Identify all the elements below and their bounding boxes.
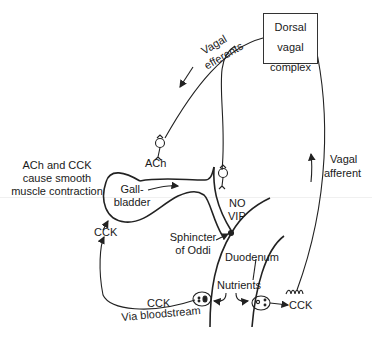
dvc-label-line-3: complex	[264, 61, 317, 74]
note-line-3: muscle contraction	[8, 185, 106, 198]
vagal-afferent-label-1: Vagal	[330, 153, 357, 166]
note-line-1: ACh and CCK	[8, 159, 106, 172]
no-vip-nerve-terminal-icon	[219, 169, 228, 178]
afferent-direction-arrow	[311, 154, 312, 182]
dorsal-vagal-complex-box: Dorsal vagal complex	[263, 13, 318, 64]
duodenum-label: Duodenum	[225, 251, 279, 264]
vagal-efferent-no-vip-path	[221, 46, 235, 170]
afferent-endings-icon	[286, 290, 303, 294]
vip-label: VIP	[228, 210, 246, 223]
efferent-direction-arrow	[180, 67, 193, 87]
sphincter-dot	[229, 231, 234, 236]
vagal-afferent-path	[297, 44, 325, 290]
vagal-afferent-label-2: afferent	[324, 167, 361, 180]
gallbladder-label-2: bladder	[112, 196, 152, 209]
diagram-canvas: Dorsal vagal complex Vagal efferents Vag…	[0, 0, 372, 337]
dvc-label-line-2: vagal	[264, 41, 317, 54]
cck-right-label: CCK	[289, 299, 312, 312]
sphincter-label-1: Sphincter	[168, 231, 218, 244]
nutrients-label: Nutrients	[217, 279, 261, 292]
ach-nerve-terminal-icon	[156, 139, 165, 148]
cck-gallbladder-label: CCK	[94, 226, 117, 239]
note-line-2: cause smooth	[8, 172, 106, 185]
dvc-label-line-1: Dorsal	[264, 21, 317, 34]
ach-label: ACh	[145, 157, 166, 170]
gallbladder-label-1: Gall-	[112, 183, 152, 196]
no-label: NO	[229, 197, 246, 210]
sphincter-label-2: of Oddi	[168, 244, 218, 257]
